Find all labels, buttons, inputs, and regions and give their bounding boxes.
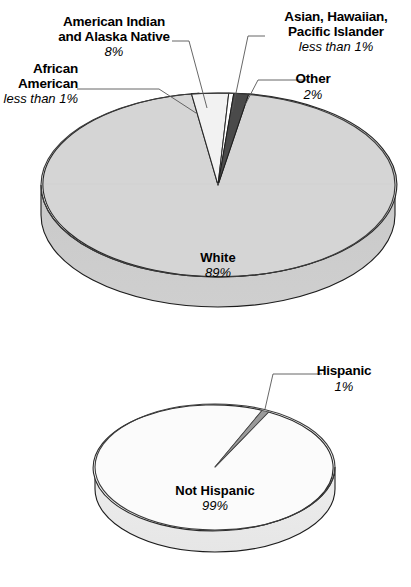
callout-american-indian-name-line1: American Indian (48, 15, 180, 30)
ethnicity-pie-chart (93, 374, 335, 552)
callout-other: Other 2% (283, 72, 343, 102)
pie-label-white-name: White (158, 250, 278, 265)
callout-american-indian-percent: 8% (48, 44, 180, 59)
callout-asian-name-line1: Asian, Hawaiian, (263, 10, 409, 25)
callout-american-indian: American Indian and Alaska Native 8% (48, 15, 180, 59)
callout-african-american-percent: less than 1% (0, 91, 78, 106)
callout-asian-hawaiian-pacific-islander: Asian, Hawaiian, Pacific Islander less t… (263, 10, 409, 54)
pie-label-not-hispanic: Not Hispanic 99% (145, 483, 285, 513)
callout-african-american-name-line2: American (0, 77, 78, 92)
figure-canvas: American Indian and Alaska Native 8% Afr… (0, 0, 411, 587)
callout-african-american: African American less than 1% (0, 62, 78, 106)
pie-label-white-percent: 89% (158, 265, 278, 280)
callout-hispanic: Hispanic 1% (298, 364, 390, 394)
callout-asian-name-line2: Pacific Islander (263, 25, 409, 40)
callout-american-indian-name-line2: and Alaska Native (48, 30, 180, 45)
callout-asian-percent: less than 1% (263, 39, 409, 54)
callout-other-percent: 2% (283, 87, 343, 102)
callout-hispanic-percent: 1% (298, 379, 390, 394)
callout-african-american-name-line1: African (0, 62, 78, 77)
pie-label-not-hispanic-percent: 99% (145, 498, 285, 513)
callout-other-name: Other (283, 72, 343, 87)
callout-hispanic-name: Hispanic (298, 364, 390, 379)
pie-label-not-hispanic-name: Not Hispanic (145, 483, 285, 498)
pie-label-white: White 89% (158, 250, 278, 280)
